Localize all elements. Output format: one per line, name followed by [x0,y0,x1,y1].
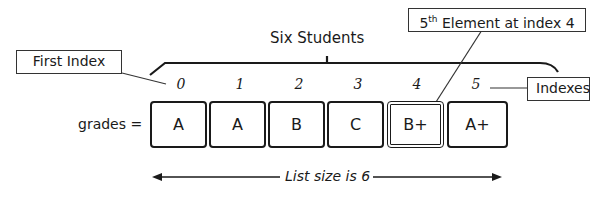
indexes-callout: Indexes [527,77,590,101]
variable-label: grades = [78,116,142,132]
fifth-element-callout: 5th Element at index 4 [408,8,586,32]
diagram-title: Six Students [270,29,364,47]
index-1: 1 [230,76,250,92]
index-2: 2 [289,76,309,92]
index-5: 5 [466,76,486,92]
list-cell-5: A+ [447,101,508,148]
first-index-callout: First Index [16,50,122,74]
callout-sup: th [428,14,437,24]
index-4: 4 [407,76,427,92]
list-size-label: List size is 6 [285,168,370,184]
callout-rest: Element at index 4 [438,15,575,31]
list-cell-0: A [150,101,207,148]
list-cell-2: B [268,101,325,148]
list-cell-4-highlighted: B+ [387,101,444,148]
list-cell-3: C [327,101,384,148]
index-0: 0 [171,76,191,92]
index-3: 3 [348,76,368,92]
callout-num: 5 [419,15,428,31]
list-cell-1: A [209,101,266,148]
